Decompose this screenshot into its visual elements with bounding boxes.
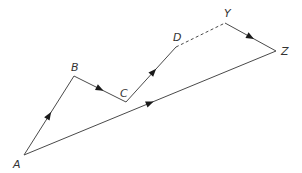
arrowhead-icon	[245, 32, 255, 41]
vector-diagram: ABCDYZ	[0, 0, 302, 173]
segments-group	[24, 23, 276, 155]
point-label-z: Z	[280, 45, 289, 58]
point-label-c: C	[120, 87, 128, 100]
point-label-b: B	[71, 61, 79, 74]
point-label-a: A	[12, 158, 21, 171]
point-label-y: Y	[224, 7, 232, 20]
arrowhead-icon	[95, 84, 105, 93]
arrowhead-icon	[44, 110, 54, 120]
segment-dy	[176, 23, 225, 47]
arrowhead-icon	[145, 99, 155, 108]
labels-group: ABCDYZ	[12, 7, 289, 171]
point-label-d: D	[173, 31, 181, 44]
